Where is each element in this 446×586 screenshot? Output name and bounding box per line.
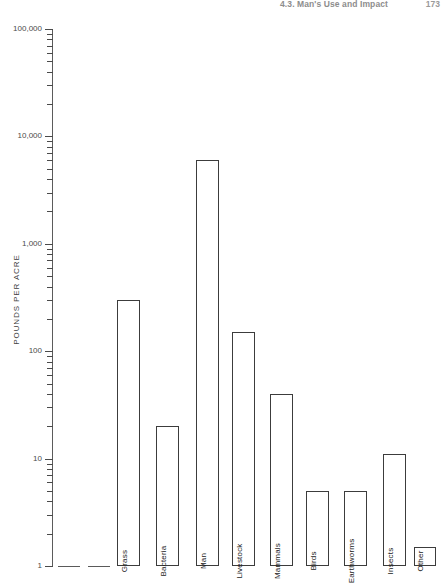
y-tick-minor (47, 141, 53, 142)
bar-label: Earthworms (347, 539, 356, 584)
y-tick-minor (47, 407, 53, 408)
y-tick-major (45, 351, 53, 352)
bar-label: Man (199, 553, 208, 569)
y-axis-label: POUNDS PER ACRE (12, 240, 21, 360)
bar-baseline-mark (88, 566, 110, 567)
y-tick-minor (47, 179, 53, 180)
y-tick-minor (47, 534, 53, 535)
y-tick-major (45, 29, 53, 30)
y-tick-label: 100,000 (0, 25, 42, 33)
y-tick-minor (47, 46, 53, 47)
y-tick-minor (47, 491, 53, 492)
y-tick-label: 100 (0, 347, 42, 355)
y-tick-label: 10,000 (0, 132, 42, 140)
y-tick-minor (47, 362, 53, 363)
y-tick-minor (47, 211, 53, 212)
y-tick-minor (47, 53, 53, 54)
bar-label: Mammals (273, 543, 282, 579)
y-tick-minor (47, 249, 53, 250)
bar-man: Man (196, 160, 219, 566)
y-tick-minor (47, 254, 53, 255)
bar-insects: Insects (383, 454, 406, 566)
y-tick-minor (47, 475, 53, 476)
bar-livestock: Livestock (232, 332, 255, 566)
y-tick-minor (47, 147, 53, 148)
y-tick-minor (47, 268, 53, 269)
y-tick-minor (47, 426, 53, 427)
y-tick-minor (47, 260, 53, 261)
y-tick-minor (47, 276, 53, 277)
y-tick-minor (47, 169, 53, 170)
bar-label: Bacteria (159, 546, 168, 577)
y-tick-minor (47, 515, 53, 516)
y-tick-minor (47, 39, 53, 40)
y-tick-minor (47, 319, 53, 320)
y-tick-minor (47, 300, 53, 301)
y-tick-minor (47, 153, 53, 154)
chart-figure: 100,00010,0001,000100101 POUNDS PER ACRE… (0, 0, 446, 586)
y-axis-line (52, 29, 53, 567)
y-tick-minor (47, 72, 53, 73)
y-tick-major (45, 244, 53, 245)
y-tick-major (45, 459, 53, 460)
bar-mammals: Mammals (270, 394, 293, 566)
y-tick-minor (47, 104, 53, 105)
bar-bacteria: Bacteria (156, 426, 179, 566)
y-tick-label: 1,000 (0, 240, 42, 248)
bar-grass: Grass (117, 300, 140, 566)
y-tick-minor (47, 160, 53, 161)
y-tick-major (45, 136, 53, 137)
y-tick-minor (47, 85, 53, 86)
y-tick-minor (47, 193, 53, 194)
y-tick-minor (47, 501, 53, 502)
y-tick-minor (47, 356, 53, 357)
y-tick-minor (47, 375, 53, 376)
y-tick-minor (47, 482, 53, 483)
y-tick-minor (47, 394, 53, 395)
y-tick-minor (47, 384, 53, 385)
y-tick-major (45, 566, 53, 567)
bar-label: Birds (309, 551, 318, 570)
y-tick-label: 1 (0, 562, 42, 570)
y-tick-minor (47, 34, 53, 35)
y-tick-label: 10 (0, 455, 42, 463)
y-tick-minor (47, 368, 53, 369)
bar-other: Other (414, 547, 436, 566)
bar-label: Other (416, 550, 425, 571)
bar-label: Grass (120, 550, 129, 572)
bar-label: Insects (386, 548, 395, 575)
y-tick-minor (47, 287, 53, 288)
y-tick-minor (47, 464, 53, 465)
y-tick-minor (47, 469, 53, 470)
bar-earthworms: Earthworms (344, 491, 367, 566)
bar-label: Livestock (235, 543, 244, 578)
bar-birds: Birds (306, 491, 329, 566)
bar-baseline-mark (58, 566, 80, 567)
y-tick-minor (47, 61, 53, 62)
